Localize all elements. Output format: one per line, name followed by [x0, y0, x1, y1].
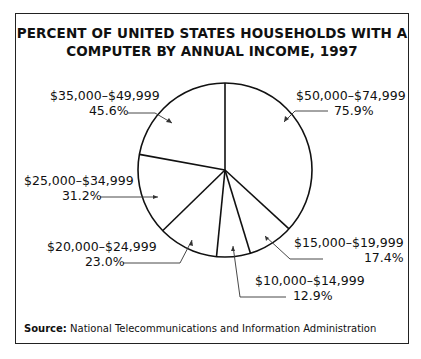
arrowheads: [153, 116, 289, 251]
label-percent: 12.9%: [255, 288, 365, 303]
label-percent: 17.4%: [294, 250, 404, 265]
leader-lines: [100, 111, 328, 297]
pie-slices: [138, 83, 312, 257]
label-range: $10,000–$14,999: [255, 273, 365, 288]
label-range: $25,000–$34,999: [24, 173, 134, 188]
label-range: $15,000–$19,999: [294, 235, 404, 250]
label-range: $20,000–$24,999: [47, 239, 157, 254]
slice-divider: [139, 154, 225, 170]
label-20000-24999: $20,000–$24,999 23.0%: [47, 239, 157, 269]
label-percent: 31.2%: [24, 188, 134, 203]
label-10000-14999: $10,000–$14,999 12.9%: [255, 273, 365, 303]
label-25000-34999: $25,000–$34,999 31.2%: [24, 173, 134, 203]
label-15000-19999: $15,000–$19,999 17.4%: [294, 235, 404, 265]
slice-divider: [163, 170, 225, 231]
source-note: Source: National Telecommunications and …: [24, 323, 376, 334]
label-percent: 23.0%: [47, 254, 157, 269]
label-range: $50,000–$74,999: [296, 88, 406, 103]
source-text: National Telecommunications and Informat…: [70, 323, 376, 334]
slice-divider: [217, 170, 226, 257]
label-percent: 45.6%: [50, 103, 160, 118]
label-50000-74999: $50,000–$74,999 75.9%: [296, 88, 406, 118]
source-label: Source:: [24, 323, 67, 334]
label-35000-49999: $35,000–$49,999 45.6%: [50, 88, 160, 118]
label-range: $35,000–$49,999: [50, 88, 160, 103]
label-percent: 75.9%: [296, 103, 406, 118]
